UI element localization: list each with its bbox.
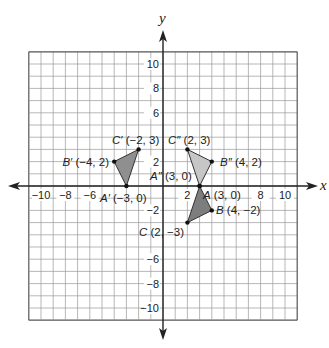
vertex-point [124, 184, 128, 188]
vertex-point [185, 220, 189, 224]
coordinate-plane: x y −10−8−6281010862−2−6−8−10 A (3, 0)B … [0, 0, 329, 348]
x-tick-label: 10 [279, 189, 291, 201]
x-tick-label: −8 [59, 189, 72, 201]
x-axis-label: x [319, 177, 327, 193]
vertex-label: C (2, −3) [139, 226, 184, 238]
vertex-label: A (3, 0) [202, 189, 241, 201]
vertex-label: A″ (3, 0) [149, 170, 192, 182]
y-axis-label: y [157, 10, 166, 26]
x-tick-label: 2 [184, 189, 190, 201]
y-tick-label: 2 [153, 156, 159, 168]
y-tick-label: −8 [146, 278, 159, 290]
vertex-label: C″ (2, 3) [168, 134, 211, 146]
vertex-point [210, 159, 214, 163]
x-tick-label: −10 [32, 189, 51, 201]
x-tick-label: −6 [84, 189, 97, 201]
y-tick-label: 8 [153, 82, 159, 94]
vertex-point [210, 208, 214, 212]
vertex-label: B (4, −2) [216, 204, 261, 216]
vertex-point [185, 147, 189, 151]
vertex-label: C′ (−2, 3) [112, 134, 159, 146]
y-tick-label: −2 [146, 204, 159, 216]
y-tick-label: 10 [147, 58, 159, 70]
vertex-point [136, 147, 140, 151]
y-tick-label: −10 [140, 302, 159, 314]
vertex-label: A′ (−3, 0) [99, 192, 147, 204]
vertex-point [197, 184, 201, 188]
vertex-point [112, 159, 116, 163]
y-tick-label: −6 [146, 253, 159, 265]
y-tick-label: 6 [153, 107, 159, 119]
vertex-label: B″ (4, 2) [220, 156, 262, 168]
x-tick-label: 8 [258, 189, 264, 201]
vertex-label: B′ (−4, 2) [62, 156, 109, 168]
